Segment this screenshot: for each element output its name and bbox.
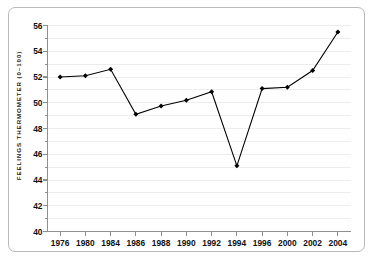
y-tick-label: 56 [21, 21, 43, 31]
data-markers [58, 29, 341, 168]
y-axis-ticks [43, 26, 48, 232]
y-tick-label: 46 [21, 149, 43, 159]
data-line [60, 32, 338, 166]
y-tick-label: 50 [21, 98, 43, 108]
chart-figure: FEELINGS THERMOMETER (0–100) 40424446485… [0, 0, 373, 266]
y-axis-title: FEELINGS THERMOMETER (0–100) [15, 36, 22, 196]
y-tick-label: 52 [21, 72, 43, 82]
y-tick-label: 54 [21, 46, 43, 56]
y-tick-label: 44 [21, 175, 43, 185]
x-tick-label: 2004 [318, 238, 358, 248]
y-tick-label: 48 [21, 124, 43, 134]
line-chart [0, 0, 373, 266]
x-axis-ticks [60, 232, 338, 236]
y-tick-label: 40 [21, 227, 43, 237]
y-tick-label: 42 [21, 201, 43, 211]
gridlines [48, 26, 351, 232]
